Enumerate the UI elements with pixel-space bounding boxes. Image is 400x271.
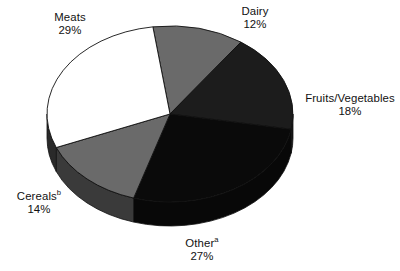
slice-label-other-name: Othera <box>162 237 242 250</box>
slice-label-fruits-vegetables-name: Fruits/Vegetables <box>300 92 400 105</box>
pie-chart-svg <box>0 0 400 271</box>
slice-label-cereals-name: Cerealsb <box>2 190 76 203</box>
slice-label-fruits-vegetables-value: 18% <box>300 105 400 118</box>
slice-label-meats-value: 29% <box>30 24 110 37</box>
slice-label-dairy: Dairy 12% <box>215 5 295 31</box>
slice-label-meats-name: Meats <box>30 11 110 24</box>
pie-chart-figure: Meats 29% Dairy 12% Fruits/Vegetables 18… <box>0 0 400 271</box>
footnote-marker-a: a <box>214 235 218 244</box>
slice-label-cereals-text: Cereals <box>17 190 57 202</box>
slice-label-other-value: 27% <box>162 250 242 263</box>
slice-label-meats: Meats 29% <box>30 11 110 37</box>
slice-label-dairy-value: 12% <box>215 18 295 31</box>
footnote-marker-b: b <box>57 188 61 197</box>
slice-label-dairy-name: Dairy <box>215 5 295 18</box>
slice-label-cereals: Cerealsb 14% <box>2 190 76 216</box>
slice-label-other: Othera 27% <box>162 237 242 263</box>
slice-label-fruits-vegetables: Fruits/Vegetables 18% <box>300 92 400 118</box>
slice-label-cereals-value: 14% <box>2 203 76 216</box>
slice-label-other-text: Other <box>185 237 214 249</box>
pie-slice-tops <box>47 26 293 202</box>
